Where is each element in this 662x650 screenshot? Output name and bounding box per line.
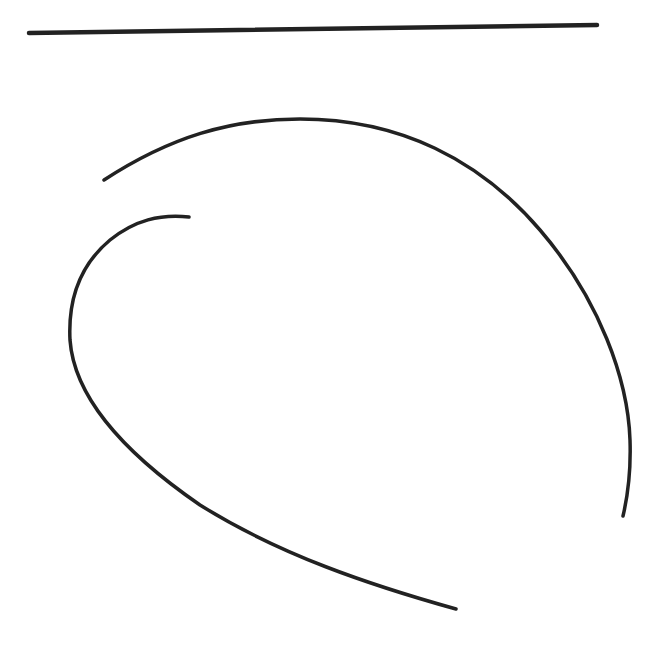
horizontal-line (29, 25, 597, 33)
drawing-canvas (0, 0, 662, 650)
outer-arc (104, 119, 630, 516)
inner-curve (70, 216, 456, 609)
